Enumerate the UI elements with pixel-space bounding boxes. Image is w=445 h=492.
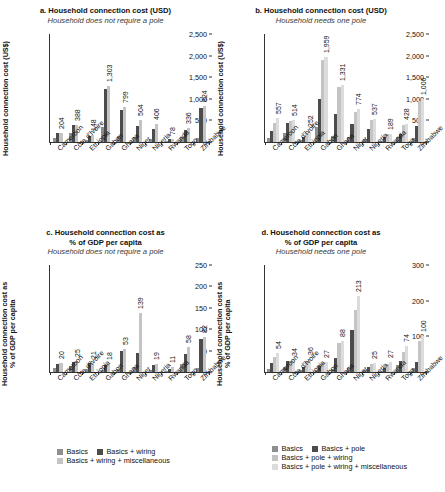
bar-value-label: 11 xyxy=(169,356,176,363)
bar-group: 406 xyxy=(145,34,161,142)
bar-value-label: 53 xyxy=(122,338,129,346)
bar-a-9-2: 824 xyxy=(203,106,206,142)
legend-item-1[interactable]: Basics + wiring xyxy=(97,447,155,456)
x-tick-mark xyxy=(313,372,314,375)
bar-value-label: 388 xyxy=(74,109,81,121)
bar-group: 58 xyxy=(177,265,193,372)
bar-value-label: 78 xyxy=(169,127,176,135)
x-tick-mark xyxy=(329,372,330,375)
chart-b-bars: 5575142521,9591,3317745371894281,006 xyxy=(265,34,426,142)
x-tick-mark xyxy=(177,142,178,145)
legend-swatch-icon xyxy=(272,455,278,461)
x-tick-mark xyxy=(98,372,99,375)
chart-c-y-axis-label: Household connection cost as % of GDP pe… xyxy=(1,263,21,405)
chart-b-plot-area: 05001,0001,5002,0002,500 5575142521,9591… xyxy=(231,34,429,162)
bar-value-label: 20 xyxy=(58,352,65,360)
legend-swatch-icon xyxy=(57,449,63,455)
legend-item-2[interactable]: Basics + pole + wiring xyxy=(272,453,352,462)
chart-b-title: b. Household connection cost (USD) xyxy=(215,6,427,16)
chart-d-bars: 5434362788213252774100 xyxy=(265,265,426,372)
legend-row: Basics + pole + wiring + miscellaneous xyxy=(272,462,416,471)
x-tick-mark xyxy=(50,372,51,375)
bar-b-5-3: 774 xyxy=(357,109,360,142)
legend-item-2[interactable]: Basics + wiring + miscellaneous xyxy=(57,456,170,465)
bar-group: 213 xyxy=(345,265,361,372)
chart-d-x-labels: CameroonCôte d'IvoireEthiopiaGabonGhanaN… xyxy=(265,374,426,424)
x-tick-mark xyxy=(98,142,99,145)
x-tick-mark xyxy=(145,142,146,145)
bar-group: 20 xyxy=(50,265,66,372)
legend-label: Basics + pole + wiring + miscellaneous xyxy=(282,462,408,471)
bar-group: 336 xyxy=(177,34,193,142)
bar-value-label: 204 xyxy=(58,117,65,129)
bar-b-4-3: 1,331 xyxy=(341,85,344,142)
chart-panel-b: b. Household connection cost (USD) House… xyxy=(215,0,431,225)
chart-b-x-labels: CameroonCôte d'IvoireEthiopiaGabonGhanaN… xyxy=(265,144,426,194)
bar-group: 27 xyxy=(378,265,394,372)
legend-label: Basics xyxy=(67,447,89,456)
legend-row: Basics + wiring + miscellaneous xyxy=(57,456,179,465)
x-tick-mark xyxy=(362,372,363,375)
bar-value-label: 504 xyxy=(138,105,145,117)
x-tick-mark xyxy=(378,142,379,145)
chart-c-plot-area: 050100150200250 202521185313919115882 Ca… xyxy=(22,265,212,395)
bar-group: 824 xyxy=(193,34,209,142)
x-tick-mark xyxy=(50,142,51,145)
legend-item-1[interactable]: Basics + pole xyxy=(312,444,365,453)
x-tick-mark xyxy=(297,142,298,145)
bar-group: 74 xyxy=(394,265,410,372)
bar-group: 53 xyxy=(114,265,130,372)
x-tick-mark xyxy=(329,142,330,145)
bar-group: 54 xyxy=(265,265,281,372)
x-tick-mark xyxy=(209,142,210,145)
chart-a-x-labels: CameroonCôte d'IvoireEthiopiaGabonGhanaN… xyxy=(50,144,209,194)
bar-group: 78 xyxy=(161,34,177,142)
bar-c-9-2: 82 xyxy=(203,337,206,372)
x-tick-mark xyxy=(426,372,427,375)
x-tick-mark xyxy=(426,142,427,145)
bar-group: 1,006 xyxy=(410,34,426,142)
chart-b-subtitle: Household needs one pole xyxy=(215,16,427,26)
bar-group: 139 xyxy=(129,265,145,372)
x-tick-mark xyxy=(346,142,347,145)
bar-group: 19 xyxy=(145,265,161,372)
x-tick-mark xyxy=(281,142,282,145)
legend-label: Basics + pole xyxy=(322,444,366,453)
bar-group: 799 xyxy=(114,34,130,142)
legend-swatch-icon xyxy=(57,458,63,464)
legend-row: BasicsBasics + wiring xyxy=(57,447,179,456)
bar-group: 774 xyxy=(345,34,361,142)
chart-b-y-axis-label: Household connection cost (US$) xyxy=(217,34,227,162)
bar-value-label: 139 xyxy=(138,297,145,309)
bar-group: 82 xyxy=(193,265,209,372)
legend-label: Basics + wiring + miscellaneous xyxy=(67,456,170,465)
chart-a-bars: 2043881481,30379950440678336824 xyxy=(50,34,209,142)
chart-c-subtitle: Household does not require a pole xyxy=(0,247,211,257)
legend-item-0[interactable]: Basics xyxy=(272,444,303,453)
bar-group: 25 xyxy=(362,265,378,372)
legend-item-3[interactable]: Basics + pole + wiring + miscellaneous xyxy=(272,462,407,471)
x-tick-mark xyxy=(209,372,210,375)
bar-d-9-3: 100 xyxy=(421,336,424,372)
x-tick-mark xyxy=(177,372,178,375)
x-tick-mark xyxy=(265,142,266,145)
bar-group: 204 xyxy=(50,34,66,142)
x-tick-mark xyxy=(378,372,379,375)
bar-group: 537 xyxy=(362,34,378,142)
x-tick-mark xyxy=(297,372,298,375)
legend-swatch-icon xyxy=(272,464,278,470)
chart-a-y-axis-label: Household connection cost (US$) xyxy=(2,34,12,162)
bar-group: 557 xyxy=(265,34,281,142)
x-tick-mark xyxy=(114,142,115,145)
bar-group: 189 xyxy=(378,34,394,142)
bar-value-label: 824 xyxy=(201,91,208,103)
x-tick-mark xyxy=(394,142,395,145)
chart-d-y-axis-label: Household connection cost as % of GDP pe… xyxy=(216,263,236,405)
legend-right: BasicsBasics + poleBasics + pole + wirin… xyxy=(272,444,416,471)
x-tick-mark xyxy=(82,142,83,145)
legend-item-0[interactable]: Basics xyxy=(57,447,88,456)
bar-value-label: 19 xyxy=(154,352,161,360)
bar-value-label: 799 xyxy=(122,92,129,104)
bar-value-label: 336 xyxy=(185,112,192,124)
